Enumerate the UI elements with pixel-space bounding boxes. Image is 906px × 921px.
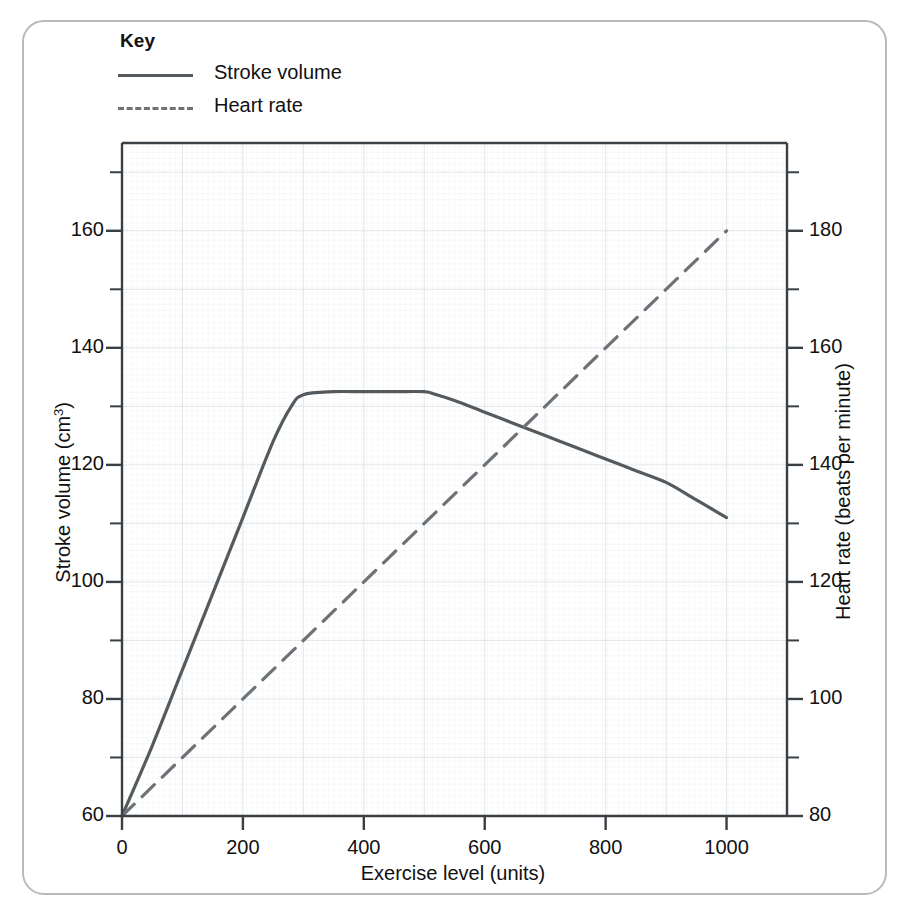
chart-card xyxy=(22,20,887,895)
legend-title: Key xyxy=(120,30,448,52)
legend-label-heart-rate: Heart rate xyxy=(214,94,303,117)
legend-item-heart-rate: Heart rate xyxy=(118,94,448,127)
legend-swatch-solid-line xyxy=(118,74,193,77)
legend-label-stroke-volume: Stroke volume xyxy=(214,61,342,84)
chart-page: Key Stroke volume Heart rate Exerci xyxy=(0,0,906,921)
legend-item-stroke-volume: Stroke volume xyxy=(118,61,448,94)
chart-legend: Key Stroke volume Heart rate xyxy=(118,30,448,127)
legend-swatch-dashed-line xyxy=(118,107,193,110)
